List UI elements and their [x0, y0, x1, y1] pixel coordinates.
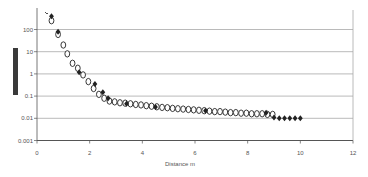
x-axis-ticks: 024681012	[35, 141, 357, 156]
y-tick-label: 10	[26, 49, 33, 55]
open-circle-marker	[144, 102, 149, 108]
open-circle-marker	[244, 110, 249, 116]
open-circle-marker	[228, 109, 233, 115]
y-tick-label: 0.01	[21, 115, 33, 121]
open-circle-marker	[197, 107, 202, 113]
open-circle-marker	[175, 106, 180, 112]
y-tick-label: 100	[23, 27, 34, 33]
open-circle-marker	[223, 109, 228, 115]
open-circle-marker	[149, 103, 154, 109]
x-tick-label: 6	[193, 150, 197, 156]
stray-mark	[45, 12, 48, 14]
x-axis-title: Distance m	[165, 161, 195, 167]
open-circle-marker	[81, 72, 86, 78]
open-circle-marker	[260, 111, 265, 117]
x-tick-label: 2	[88, 150, 92, 156]
filled-diamond-marker	[293, 115, 298, 121]
x-tick-label: 10	[297, 150, 304, 156]
open-circle-marker	[160, 104, 165, 110]
open-circle-marker	[170, 105, 175, 111]
open-circle-marker	[133, 101, 138, 107]
open-circle-marker	[181, 106, 186, 112]
open-circle-marker	[112, 99, 117, 105]
open-circle-marker	[249, 111, 254, 117]
open-circle-marker	[212, 108, 217, 114]
y-tick-label: 1	[30, 71, 34, 77]
filled-diamond-marker	[287, 115, 292, 121]
series-open-circles	[49, 17, 275, 117]
filled-diamond-marker	[277, 115, 282, 121]
open-circle-marker	[233, 109, 238, 115]
open-circle-marker	[61, 42, 66, 48]
open-circle-marker	[118, 100, 123, 106]
open-circle-marker	[191, 107, 196, 113]
open-circle-marker	[65, 51, 70, 57]
y-axis-ticks: 1001010.10.010.001	[18, 27, 37, 144]
open-circle-marker	[239, 110, 244, 116]
open-circle-marker	[186, 106, 191, 112]
open-circle-marker	[139, 102, 144, 108]
y-tick-label: 0.001	[18, 138, 34, 144]
open-circle-marker	[254, 111, 259, 117]
x-tick-label: 8	[246, 150, 250, 156]
x-tick-label: 4	[141, 150, 145, 156]
open-circle-marker	[86, 78, 91, 84]
filled-diamond-marker	[298, 115, 303, 121]
open-circle-marker	[70, 60, 75, 66]
y-tick-label: 0.1	[25, 93, 34, 99]
filled-diamond-marker	[282, 115, 287, 121]
scatter-chart: 1001010.10.010.001 024681012 Distance m	[0, 0, 368, 177]
data-series	[45, 12, 303, 121]
open-circle-marker	[165, 105, 170, 111]
open-circle-marker	[207, 108, 212, 114]
open-circle-marker	[218, 108, 223, 114]
x-tick-label: 0	[35, 150, 39, 156]
x-tick-label: 12	[350, 150, 357, 156]
